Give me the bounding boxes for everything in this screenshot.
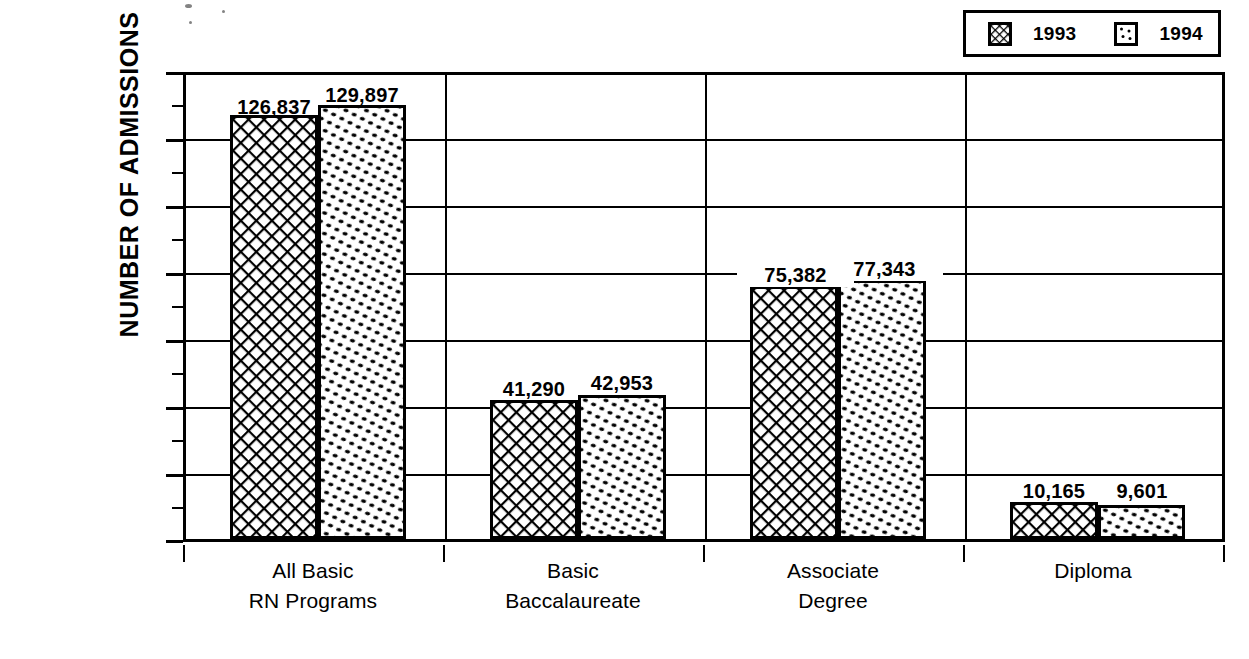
y-tick-minor [172,507,183,509]
scan-speck [222,10,225,13]
x-category-line: Degree [703,586,963,616]
legend-label-1994: 1994 [1159,23,1202,45]
x-category-line: RN Programs [183,586,443,616]
y-tick-major [166,139,183,142]
x-category-line: Baccalaureate [443,586,703,616]
y-tick-minor [172,172,183,174]
bar-value-label: 129,897 [298,84,426,107]
bar-1994-all-basic-rn-programs[interactable] [318,105,406,539]
y-tick-major [166,540,183,543]
scan-speck [189,21,192,24]
x-category-line: Associate [703,556,963,586]
x-category-all-basic-rn-programs: All Basic RN Programs [183,556,443,616]
x-category-line: Basic [443,556,703,586]
y-tick-major [166,474,183,477]
x-category-basic-baccalaureate: Basic Baccalaureate [443,556,703,616]
scan-speck [185,4,192,8]
bar-1993-all-basic-rn-programs[interactable] [230,115,318,539]
bar-1993-basic-baccalaureate[interactable] [490,400,578,539]
x-tick [1223,545,1225,562]
group-separator [965,75,967,539]
x-category-associate-degree: Associate Degree [703,556,963,616]
y-axis-title: NUMBER OF ADMISSIONS [115,10,144,340]
group-separator [705,75,707,539]
legend-label-1993: 1993 [1033,23,1076,45]
legend-entry-1993: 1993 [988,22,1076,46]
y-tick-major [166,273,183,276]
y-tick-minor [172,440,183,442]
bar-1994-diploma[interactable] [1098,505,1185,539]
bar-1993-diploma[interactable] [1010,502,1098,539]
x-category-diploma: Diploma [963,556,1223,586]
x-category-line: All Basic [183,556,443,586]
y-tick-major [166,340,183,343]
y-tick-major [166,72,183,75]
y-tick-major [166,407,183,410]
y-tick-minor [172,239,183,241]
y-tick-minor [172,105,183,107]
bar-value-label: 9,601 [1089,480,1195,503]
bar-1994-basic-baccalaureate[interactable] [578,395,666,539]
group-separator [445,75,447,539]
y-tick-minor [172,306,183,308]
y-tick-major [166,206,183,209]
legend-entry-1994: 1994 [1114,22,1202,46]
bar-value-label: 77,343 [826,258,943,281]
chart-legend: 1993 1994 [963,10,1221,57]
y-tick-minor [172,373,183,375]
x-category-line: Diploma [963,556,1223,586]
bar-1993-associate-degree[interactable] [750,286,838,539]
bar-value-label: 42,953 [562,372,682,395]
bar-1994-associate-degree[interactable] [838,280,926,539]
chart-plot-area: 126,837 129,897 41,290 42,953 75,382 77,… [183,72,1225,542]
legend-swatch-dots-icon [1114,22,1138,46]
legend-swatch-crosshatch-icon [988,22,1012,46]
